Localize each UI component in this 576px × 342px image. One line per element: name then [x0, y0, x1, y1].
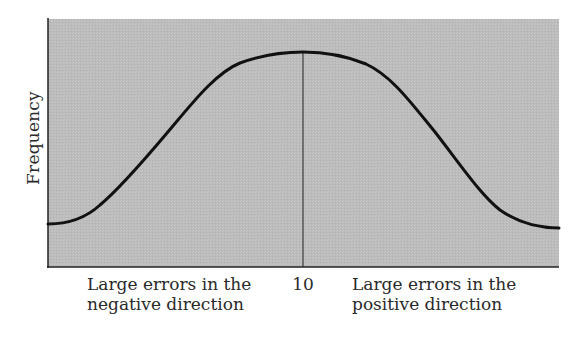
x-label-positive-line2: positive direction: [352, 294, 516, 314]
y-axis-label: Frequency: [23, 91, 43, 185]
x-label-negative: Large errors in the negative direction: [87, 274, 251, 314]
x-label-negative-line1: Large errors in the: [87, 274, 251, 294]
x-label-center-value: 10: [292, 274, 314, 294]
x-label-positive-line1: Large errors in the: [352, 274, 516, 294]
x-label-negative-line2: negative direction: [87, 294, 251, 314]
x-label-center: 10: [292, 274, 314, 294]
x-label-positive: Large errors in the positive direction: [352, 274, 516, 314]
